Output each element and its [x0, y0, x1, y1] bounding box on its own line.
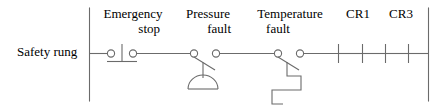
device-label-line2: fault [178, 22, 238, 37]
ladder-logic-diagram: Safety rung Emergency stop Pressure faul… [0, 0, 447, 112]
device-label-cr1: CR1 [344, 7, 372, 21]
device-label-line2: fault [244, 22, 336, 37]
estop-terminal-left [107, 50, 114, 57]
device-label-line2: stop [97, 22, 169, 37]
temperature-contact-blade [278, 57, 299, 70]
pressure-fault-symbol [188, 50, 220, 89]
device-label-pressure-fault: Pressure fault [178, 7, 238, 36]
temperature-fault-symbol [272, 50, 304, 104]
device-label-emergency-stop: Emergency stop [97, 7, 169, 36]
device-label-line1: Pressure [186, 6, 230, 21]
estop-terminal-right [129, 50, 136, 57]
temperature-terminal-right [296, 50, 303, 57]
device-label-line1: Emergency [104, 6, 163, 21]
device-label-temperature-fault: Temperature fault [244, 7, 336, 36]
pressure-terminal-right [212, 50, 219, 57]
rung-label: Safety rung [17, 45, 77, 59]
device-label-cr3: CR3 [387, 7, 415, 21]
emergency-stop-symbol [107, 44, 137, 62]
pressure-contact-blade [194, 57, 215, 70]
pressure-terminal-left [190, 50, 197, 57]
temperature-terminal-left [274, 50, 281, 57]
device-label-line1: Temperature [257, 6, 323, 21]
